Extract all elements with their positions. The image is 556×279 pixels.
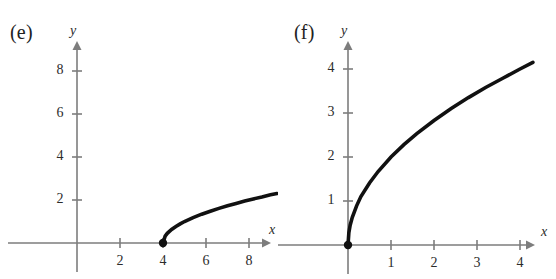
x-tick-label-e-2: 2 bbox=[117, 253, 124, 268]
x-axis-name-f: x bbox=[540, 224, 548, 239]
x-axis-arrowhead-f bbox=[526, 241, 535, 250]
y-tick-label-f-1: 1 bbox=[328, 192, 335, 207]
y-axis-name-e: y bbox=[68, 23, 77, 38]
y-tick-label-f-4: 4 bbox=[328, 60, 335, 75]
x-tick-label-f-2: 2 bbox=[431, 255, 438, 270]
y-axis-arrowhead-f bbox=[344, 41, 353, 50]
y-axis-name-f: y bbox=[339, 23, 348, 38]
x-tick-label-e-6: 6 bbox=[203, 253, 210, 268]
x-tick-label-e-8: 8 bbox=[246, 253, 253, 268]
y-tick-label-f-3: 3 bbox=[328, 104, 335, 119]
y-tick-label-e-4: 4 bbox=[57, 148, 64, 163]
panel-f: (f) 1 2 3 4 1 2 3 4 bbox=[278, 0, 556, 279]
curve-f bbox=[348, 62, 533, 245]
y-axis-arrowhead-e bbox=[73, 41, 82, 50]
panel-e-plot: 2 4 6 8 2 4 6 8 x y bbox=[0, 0, 278, 279]
x-tick-label-f-3: 3 bbox=[474, 255, 481, 270]
y-tick-label-e-6: 6 bbox=[57, 105, 64, 120]
graph-figure-pair: (e) 2 4 6 8 2 4 6 8 bbox=[0, 0, 556, 279]
curve-e bbox=[163, 194, 277, 243]
endpoint-dot-e bbox=[159, 239, 167, 247]
endpoint-dot-f bbox=[344, 241, 352, 249]
y-tick-label-e-8: 8 bbox=[57, 62, 64, 77]
x-tick-label-e-4: 4 bbox=[160, 253, 167, 268]
panel-e: (e) 2 4 6 8 2 4 6 8 bbox=[0, 0, 278, 279]
y-tick-label-e-2: 2 bbox=[57, 191, 64, 206]
x-tick-label-f-4: 4 bbox=[517, 255, 524, 270]
x-axis-arrowhead-e bbox=[262, 239, 271, 248]
y-tick-label-f-2: 2 bbox=[328, 148, 335, 163]
panel-f-plot: 1 2 3 4 1 2 3 4 x y bbox=[278, 0, 556, 279]
x-axis-name-e: x bbox=[268, 222, 276, 237]
x-tick-label-f-1: 1 bbox=[388, 255, 395, 270]
